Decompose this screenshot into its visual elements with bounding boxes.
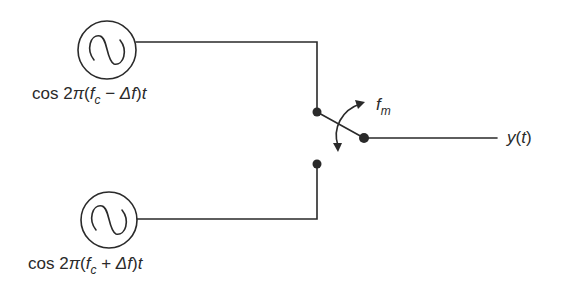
wire-bottom [137, 164, 317, 219]
label-paren: ) [526, 128, 532, 147]
label-y: y [507, 128, 516, 147]
oscillator-top-icon [78, 21, 136, 79]
label-text: cos 2 [28, 254, 69, 273]
output-label: y(t) [507, 129, 532, 146]
label-pi: π [73, 84, 84, 103]
label-text: cos 2 [32, 84, 73, 103]
contact-lower [313, 160, 322, 169]
oscillator-bottom-icon [81, 192, 137, 248]
oscillator-bottom-label: cos 2π(fc + Δf)t [28, 255, 142, 272]
label-pi: π [69, 254, 80, 273]
switch-arm [317, 112, 364, 138]
oscillator-top-label: cos 2π(fc − Δf)t [32, 85, 146, 102]
fsk-switch-diagram [0, 0, 562, 288]
label-subscript: c [94, 93, 100, 107]
label-delta: Δ [116, 254, 127, 273]
arrow-up-icon [355, 100, 365, 109]
switch-pivot [359, 133, 369, 143]
label-delta: Δ [120, 84, 131, 103]
wire-top [136, 42, 317, 112]
label-subscript: m [381, 104, 391, 118]
switch-rate-label: fm [376, 96, 391, 113]
label-subscript: c [90, 263, 96, 277]
label-t: t [138, 254, 143, 273]
label-operator: − [100, 84, 119, 103]
label-t: t [142, 84, 147, 103]
contact-upper [313, 108, 322, 117]
arrow-down-icon [333, 143, 342, 152]
label-operator: + [96, 254, 115, 273]
